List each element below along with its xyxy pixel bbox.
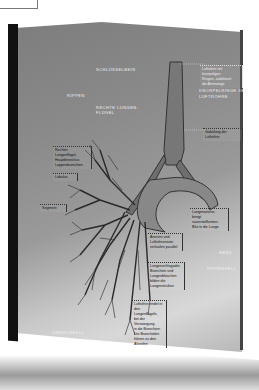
note-line: Blut in die Lunge <box>192 225 226 230</box>
note-gabelung: Gabelung der Luftröhre <box>203 128 243 141</box>
label-rippenfell: RIPPENFELL <box>207 266 236 271</box>
note-left-1: Rechter Lungenflügel, Hauptbronchus Lapp… <box>53 146 92 169</box>
note-line: Alveolen <box>134 342 164 347</box>
label-zwerchfell: ZWERCHFELL <box>52 330 84 335</box>
label-rippen: RIPPEN <box>67 93 85 98</box>
bronchial-tree-illustration <box>0 0 259 390</box>
label-herz: HERZ <box>219 250 232 255</box>
note-line: Luftröhre mit knorpeligen <box>202 67 240 77</box>
note-lungenschlagader: Lungenschlagader, Bronchien und Lungenbl… <box>148 262 185 290</box>
note-line: verlaufen parallel <box>150 245 180 250</box>
note-line: Rechter Lungenflügel, <box>55 148 89 158</box>
label-schluesselbein: SCHLÜSSELBEIN <box>96 67 136 72</box>
label-knorpelringe: KNORPELRINGE DER <box>199 88 248 93</box>
note-line: Lappenbronchien <box>55 163 89 168</box>
note-luftroehre-endet: Luftröhre endet in den Lungenflügeln, be… <box>132 300 167 348</box>
note-lungenarterie: Lungenarterie, bringt sauerstoffarmes Bl… <box>190 208 229 231</box>
note-segment: Segment <box>40 204 67 212</box>
label-knorpelringe-2: LUFTRÖHRE <box>199 94 228 99</box>
note-line: die Atemwege <box>202 82 240 87</box>
note-arterien: Arterien und Luftröhrenäste verlaufen pa… <box>148 233 183 251</box>
note-top-right: Luftröhre mit knorpeligen Ringen, stabil… <box>200 65 243 88</box>
note-line: den Lungenflügeln, <box>134 307 164 317</box>
note-lobulus: Lobulus <box>53 173 78 181</box>
note-line: Lungenstruktur <box>150 284 182 289</box>
note-line: bringt sauerstoffarmes <box>192 215 226 225</box>
note-line: bei der Verzweigung <box>134 317 164 327</box>
label-rechte-lunge-2: FLÜGEL <box>96 110 115 115</box>
